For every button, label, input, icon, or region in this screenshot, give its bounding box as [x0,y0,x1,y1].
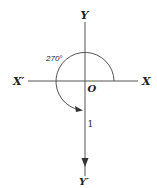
x-positive-label: X [141,75,151,88]
angle-diagram: Y Y′ X′ X O 270° 1 [0,0,157,188]
angle-label: 270° [45,54,63,63]
y-negative-label: Y′ [79,176,89,187]
x-negative-label: X′ [12,75,25,88]
radius-label: 1 [88,119,94,129]
arc-arrow-icon [75,106,83,112]
y-positive-label: Y [81,9,90,22]
origin-label: O [88,83,97,94]
terminal-arrow-icon [82,158,89,167]
